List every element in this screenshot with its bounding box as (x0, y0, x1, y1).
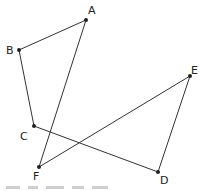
edge-ef (39, 76, 190, 167)
vertex-labels: A B C D E F (6, 4, 198, 187)
vertex-f-dot (37, 165, 41, 169)
vertex-a-dot (84, 18, 88, 22)
vertex-b-dot (17, 48, 21, 52)
label-d: D (160, 174, 168, 187)
label-f: F (33, 170, 39, 183)
vertex-c-dot (32, 124, 36, 128)
edge-ab (19, 20, 86, 50)
label-c: C (20, 130, 28, 143)
polygon-diagram: A B C D E F (0, 0, 203, 191)
label-e: E (191, 64, 198, 77)
edge-fa (39, 20, 86, 167)
edges (19, 20, 190, 172)
edge-de (158, 76, 190, 172)
edge-bc (19, 50, 34, 126)
cropped-caption-fragment (6, 186, 146, 191)
vertices (17, 18, 192, 174)
label-a: A (88, 4, 96, 17)
label-b: B (6, 44, 14, 57)
